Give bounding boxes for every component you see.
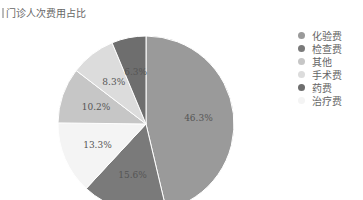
slice-label: 6.3% [124,67,147,77]
legend: 化验费检查费其他手术费药费治疗费 [298,29,342,107]
legend-dot-icon [298,71,305,78]
legend-dot-icon [298,45,305,52]
slice-label: 10.2% [82,102,111,112]
slice-label: 13.3% [83,140,112,150]
legend-dot-icon [298,97,305,104]
legend-label: 治疗费 [312,93,342,108]
slice-label: 15.6% [118,170,147,180]
slice-label: 46.3% [184,113,213,123]
legend-item[interactable]: 治疗费 [298,94,342,107]
legend-dot-icon [298,58,305,65]
legend-dot-icon [298,84,305,91]
slice-label: 8.3% [102,77,125,87]
legend-dot-icon [298,32,305,39]
